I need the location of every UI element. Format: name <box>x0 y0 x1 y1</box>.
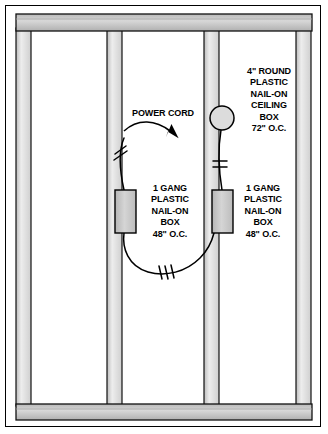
top-plate <box>16 14 312 31</box>
stud-1 <box>16 28 31 406</box>
tick-lower-2 <box>165 266 168 279</box>
label-gang-box-right: 1 GANG PLASTIC NAIL-ON BOX 48" O.C. <box>228 183 298 240</box>
tick-lower-3 <box>171 265 174 278</box>
label-power-cord: POWER CORD <box>119 108 207 119</box>
wall-framing-diagram: POWER CORD 4" ROUND PLASTIC NAIL-ON CEIL… <box>0 0 328 434</box>
gang-box-left <box>115 190 136 233</box>
label-gang-box-left: 1 GANG PLASTIC NAIL-ON BOX 48" O.C. <box>137 183 203 240</box>
power-cord-arrow <box>124 122 170 131</box>
cable-ceiling-drop <box>219 130 222 190</box>
tick-lower-1 <box>159 266 162 279</box>
label-ceiling-box: 4" ROUND PLASTIC NAIL-ON CEILING BOX 72"… <box>231 66 307 134</box>
bottom-plate <box>16 404 312 420</box>
